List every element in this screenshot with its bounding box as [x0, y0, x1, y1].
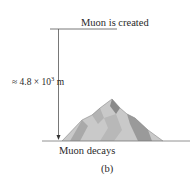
distance-value: ≈ 4.8 × 10: [12, 77, 51, 87]
figure-part-label: (b): [101, 164, 113, 175]
mountain-illustration: [62, 99, 163, 141]
distance-unit: m: [54, 77, 64, 87]
distance-arrow-head: [57, 135, 61, 140]
distance-label: ≈ 4.8 × 103 m: [12, 76, 64, 88]
muon-created-label: Muon is created: [81, 18, 149, 29]
muon-decays-label: Muon decays: [59, 146, 115, 157]
